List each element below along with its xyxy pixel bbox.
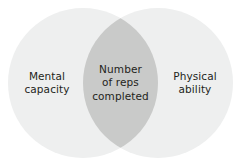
venn-diagram-svg (0, 0, 242, 165)
venn-diagram: Mental capacity Number of reps completed… (0, 0, 242, 165)
